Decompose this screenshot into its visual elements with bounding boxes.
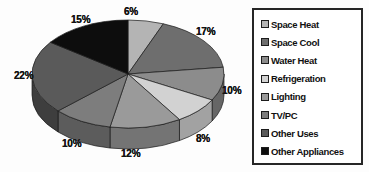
legend-item[interactable]: Other Uses	[261, 124, 361, 142]
legend-swatch-icon	[261, 20, 269, 28]
legend-swatch-icon	[261, 56, 269, 64]
slice-label-water-heat: 10%	[222, 85, 241, 96]
legend-item-label: TV/PC	[271, 110, 297, 121]
legend-item-label: Space Heat	[271, 19, 319, 30]
legend-item[interactable]: Water Heat	[261, 51, 361, 69]
slice-label-other-appliances: 15%	[71, 14, 90, 25]
slice-label-refrigeration: 8%	[196, 133, 210, 144]
slice-label-tv-pc: 10%	[62, 138, 81, 149]
legend-item[interactable]: Space Cool	[261, 33, 361, 51]
chart-root: 6% 17% 10% 8% 12% 10% 22% 15% Space Heat…	[0, 0, 369, 172]
legend-swatch-icon	[261, 111, 269, 119]
legend-item-label: Lighting	[271, 91, 306, 102]
slice-label-lighting: 12%	[121, 148, 140, 159]
slice-label-space-cool: 17%	[196, 26, 215, 37]
legend-item[interactable]: TV/PC	[261, 106, 361, 124]
legend-item-label: Other Uses	[271, 128, 318, 139]
legend-swatch-icon	[261, 147, 269, 155]
legend: Space HeatSpace CoolWater HeatRefrigerat…	[252, 8, 363, 165]
legend-item-label: Water Heat	[271, 55, 317, 66]
legend-item-label: Space Cool	[271, 37, 319, 48]
legend-item-label: Refrigeration	[271, 73, 326, 84]
legend-item[interactable]: Other Appliances	[261, 142, 361, 160]
legend-swatch-icon	[261, 129, 269, 137]
pie-chart-area: 6% 17% 10% 8% 12% 10% 22% 15%	[0, 0, 248, 172]
legend-item-label: Other Appliances	[271, 146, 344, 157]
legend-swatch-icon	[261, 38, 269, 46]
slice-label-space-heat: 6%	[124, 6, 138, 17]
legend-swatch-icon	[261, 75, 269, 83]
legend-item[interactable]: Refrigeration	[261, 70, 361, 88]
legend-item[interactable]: Space Heat	[261, 15, 361, 33]
legend-item[interactable]: Lighting	[261, 88, 361, 106]
slice-label-other-uses: 22%	[14, 70, 33, 81]
legend-swatch-icon	[261, 93, 269, 101]
